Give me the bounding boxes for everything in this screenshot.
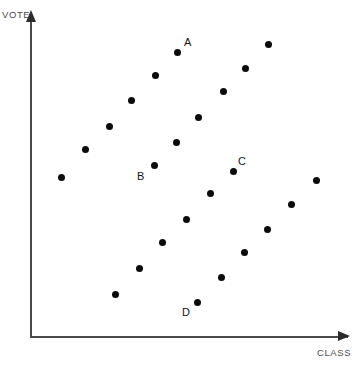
scatter-plot-figure: VOTE CLASS ABCD xyxy=(0,0,364,366)
data-point xyxy=(220,88,227,95)
data-point xyxy=(264,226,271,233)
point-label-c: C xyxy=(238,156,246,167)
point-label-b: B xyxy=(137,171,144,182)
point-label-d: D xyxy=(182,307,190,318)
data-point xyxy=(136,265,143,272)
data-point xyxy=(265,41,272,48)
data-point xyxy=(194,299,201,306)
data-point xyxy=(195,114,202,121)
data-point xyxy=(173,139,180,146)
data-point xyxy=(58,174,65,181)
data-point xyxy=(106,123,113,130)
data-point xyxy=(207,190,214,197)
data-point xyxy=(218,274,225,281)
data-point xyxy=(313,177,320,184)
data-point xyxy=(174,49,181,56)
data-point xyxy=(152,72,159,79)
data-point xyxy=(230,168,237,175)
data-point xyxy=(151,162,158,169)
data-point xyxy=(112,291,119,298)
data-point xyxy=(159,239,166,246)
data-point xyxy=(183,216,190,223)
data-point xyxy=(241,249,248,256)
point-label-a: A xyxy=(184,37,191,48)
data-point xyxy=(242,65,249,72)
data-point xyxy=(128,97,135,104)
data-point xyxy=(82,146,89,153)
data-point xyxy=(288,201,295,208)
